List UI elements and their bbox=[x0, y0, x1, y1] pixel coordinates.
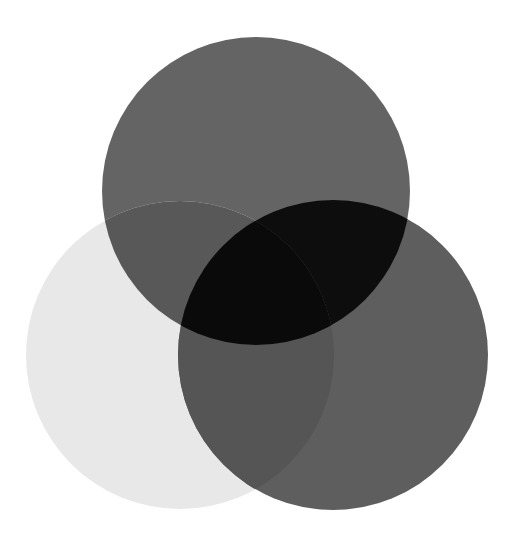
venn-diagram-canvas bbox=[0, 0, 512, 547]
venn-svg bbox=[0, 0, 512, 547]
